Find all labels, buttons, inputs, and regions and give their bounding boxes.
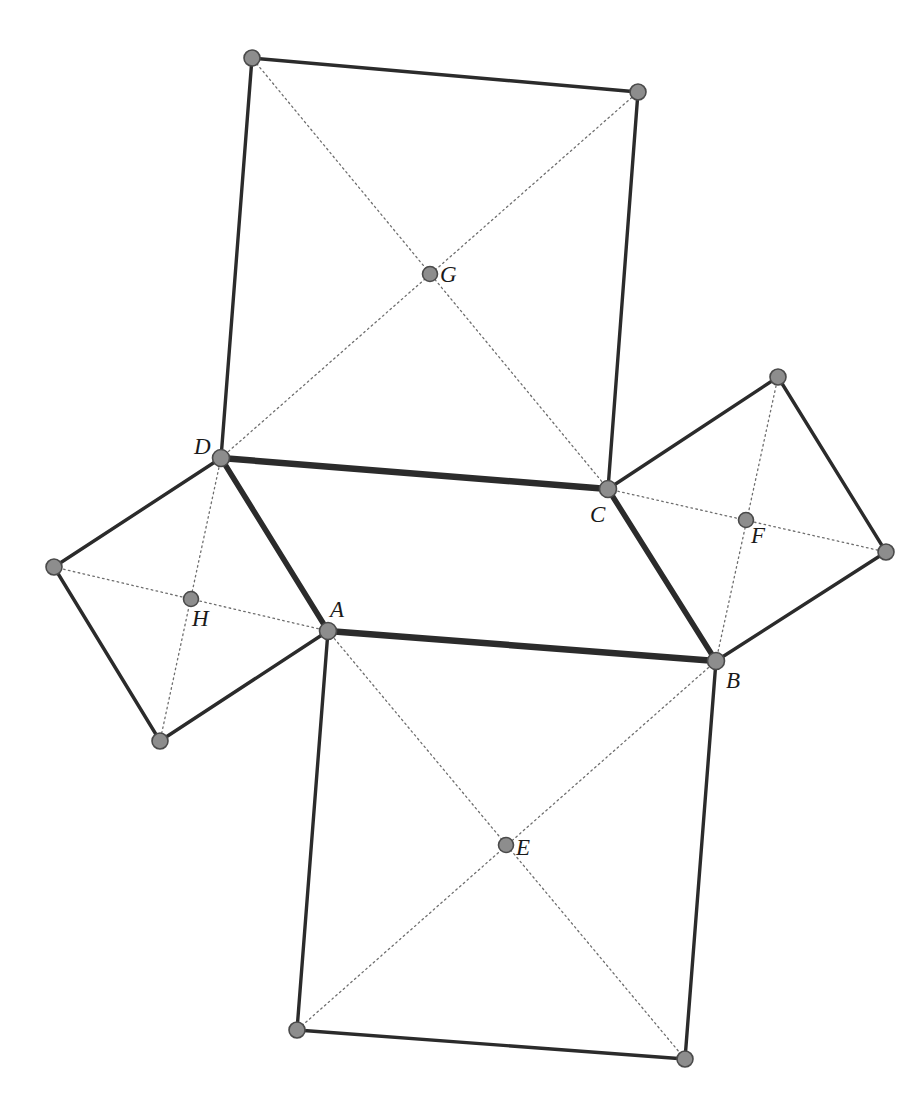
- point-marker-p6[interactable]: [244, 50, 260, 66]
- edge-CD: [221, 458, 608, 489]
- point-label-d: D: [194, 435, 211, 458]
- point-marker-p3[interactable]: [878, 544, 894, 560]
- point-marker-e[interactable]: [499, 838, 514, 853]
- point-marker-p5[interactable]: [630, 84, 646, 100]
- edge-DA: [221, 458, 328, 631]
- point-marker-p4[interactable]: [770, 369, 786, 385]
- square-ab-side-p2-p1: [297, 1030, 685, 1059]
- parallelogram-edges-layer: [221, 458, 716, 661]
- edge-BC: [608, 489, 716, 661]
- square-sides-layer: [54, 58, 886, 1059]
- point-marker-p1[interactable]: [289, 1022, 305, 1038]
- square-da-side-p8-p7: [54, 567, 160, 741]
- point-marker-p2[interactable]: [677, 1051, 693, 1067]
- point-marker-a[interactable]: [320, 623, 337, 640]
- point-label-h: H: [192, 607, 209, 630]
- square-ab-side-p1-a: [297, 631, 328, 1030]
- figure-canvas: [0, 0, 923, 1101]
- point-marker-p7[interactable]: [46, 559, 62, 575]
- square-bc-side-p3-b: [716, 552, 886, 661]
- geometry-figure: ABCDEFGH: [0, 0, 923, 1101]
- edge-AB: [328, 631, 716, 661]
- point-marker-c[interactable]: [600, 481, 617, 498]
- square-cd-side-d-p6: [221, 58, 252, 458]
- point-marker-d[interactable]: [213, 450, 230, 467]
- square-cd-side-p6-p5: [252, 58, 638, 92]
- square-bc-side-c-p4: [608, 377, 778, 489]
- point-label-g: G: [440, 263, 457, 286]
- point-label-b: B: [726, 669, 740, 692]
- point-marker-b[interactable]: [708, 653, 725, 670]
- vertex-dots-layer: [46, 50, 894, 1067]
- square-da-side-p7-d: [54, 458, 221, 567]
- dotted-diagonals-layer: [54, 58, 886, 1059]
- point-label-a: A: [330, 598, 344, 621]
- point-marker-h[interactable]: [184, 592, 199, 607]
- square-da-side-a-p8: [160, 631, 328, 741]
- point-label-e: E: [516, 836, 530, 859]
- point-marker-p8[interactable]: [152, 733, 168, 749]
- square-ab-side-b-p2: [685, 661, 716, 1059]
- square-bc-side-p4-p3: [778, 377, 886, 552]
- square-cd-side-p5-c: [608, 92, 638, 489]
- point-marker-g[interactable]: [423, 267, 438, 282]
- point-label-c: C: [590, 503, 605, 526]
- point-label-f: F: [751, 524, 765, 547]
